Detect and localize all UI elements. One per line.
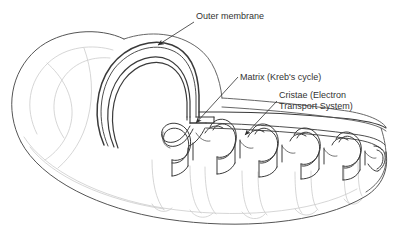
cut-edge-inner-membrane bbox=[108, 57, 190, 148]
label-outer-membrane: Outer membrane bbox=[196, 11, 264, 22]
mitochondrion-illustration bbox=[0, 0, 393, 239]
leader-outer-membrane bbox=[158, 22, 194, 45]
label-cristae-line1: Cristae (Electron bbox=[279, 90, 346, 100]
inner-membrane-band bbox=[206, 123, 385, 150]
label-matrix: Matrix (Kreb's cycle) bbox=[240, 72, 321, 83]
label-cristae: Cristae (ElectronTransport System) bbox=[279, 90, 353, 112]
cristae-folds bbox=[162, 119, 386, 180]
mitochondrion-figure: Outer membrane Matrix (Kreb's cycle) Cri… bbox=[0, 0, 393, 239]
outer-membrane-silhouette bbox=[12, 32, 387, 225]
cristae-inner-lines bbox=[162, 132, 376, 158]
leader-matrix bbox=[196, 77, 238, 123]
label-cristae-line2: Transport System) bbox=[279, 101, 353, 111]
